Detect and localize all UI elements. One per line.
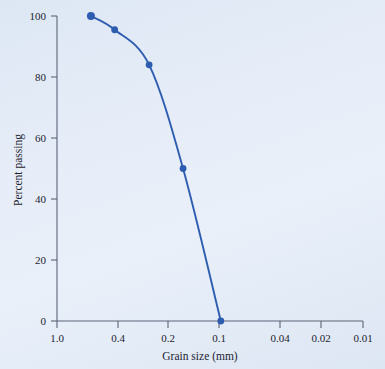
grain-size-distribution-chart: 100 80 60 40 20 0 Percent passing 1.0 xyxy=(0,0,385,369)
data-point xyxy=(87,12,95,20)
y-tick-label-80: 80 xyxy=(35,71,47,83)
y-tick-label-20: 20 xyxy=(35,254,47,266)
x-tick-label-0-4: 0.4 xyxy=(111,332,125,344)
x-tick-label-0-2: 0.2 xyxy=(161,332,175,344)
y-axis-group: 100 80 60 40 20 0 Percent passing xyxy=(12,10,57,327)
y-axis-title: Percent passing xyxy=(12,134,25,206)
chart-figure: 100 80 60 40 20 0 Percent passing 1.0 xyxy=(0,0,385,369)
y-tick-label-100: 100 xyxy=(30,10,47,22)
x-tick-label-0-01: 0.01 xyxy=(353,332,372,344)
grain-size-curve xyxy=(91,16,221,321)
y-tick-label-40: 40 xyxy=(35,193,47,205)
data-point-markers xyxy=(87,12,224,324)
y-axis-ticks xyxy=(51,16,57,321)
x-tick-label-0-1: 0.1 xyxy=(212,332,226,344)
x-tick-label-1-0: 1.0 xyxy=(50,332,64,344)
x-tick-label-0-02: 0.02 xyxy=(311,332,330,344)
data-point xyxy=(180,165,187,172)
data-point xyxy=(217,318,224,325)
y-tick-label-60: 60 xyxy=(35,132,47,144)
x-axis-tick-labels: 1.0 0.4 0.2 0.1 0.04 0.02 0.01 xyxy=(50,332,373,344)
data-point xyxy=(146,61,153,68)
data-series-group xyxy=(87,12,224,324)
x-axis-group: 1.0 0.4 0.2 0.1 0.04 0.02 0.01 Grain siz… xyxy=(50,321,373,363)
x-axis-ticks xyxy=(57,321,363,328)
x-tick-label-0-04: 0.04 xyxy=(270,332,290,344)
y-tick-label-0: 0 xyxy=(41,315,47,327)
y-axis-tick-labels: 100 80 60 40 20 0 xyxy=(30,10,47,327)
x-axis-title: Grain size (mm) xyxy=(162,350,238,363)
data-point xyxy=(111,26,118,33)
